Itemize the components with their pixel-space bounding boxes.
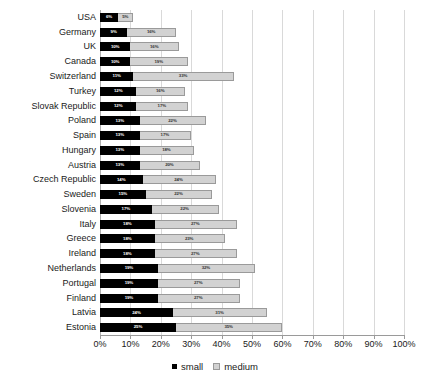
legend-swatch-small: [172, 364, 177, 369]
bar-value-label: 27%: [191, 252, 200, 256]
bar-segment-small: 18%: [100, 234, 155, 243]
bar-segment-small: 19%: [100, 279, 158, 288]
bar-row: 14%24%: [100, 175, 404, 184]
bar-value-label: 22%: [180, 207, 189, 211]
bar-segment-medium: 16%: [127, 28, 176, 37]
legend-item-medium[interactable]: medium: [213, 362, 258, 372]
bar-segment-medium: 5%: [118, 13, 133, 22]
bar-row: 17%22%: [100, 205, 404, 214]
bar-segment-medium: 35%: [176, 323, 282, 332]
bar-segment-small: 12%: [100, 102, 136, 111]
bar-row: 18%23%: [100, 234, 404, 243]
bar-value-label: 19%: [155, 60, 164, 64]
category-label-ireland: Ireland: [0, 249, 96, 258]
bar-segment-small: 10%: [100, 57, 130, 66]
category-label-estonia: Estonia: [0, 323, 96, 332]
bar-value-label: 35%: [224, 325, 233, 329]
category-label-spain: Spain: [0, 131, 96, 140]
bar-value-label: 23%: [185, 237, 194, 241]
category-label-germany: Germany: [0, 28, 96, 37]
legend-label: medium: [224, 362, 258, 372]
bar-row: 18%27%: [100, 220, 404, 229]
legend-label: small: [181, 362, 203, 372]
bar-value-label: 17%: [161, 133, 170, 137]
bar-value-label: 15%: [119, 192, 128, 196]
category-label-canada: Canada: [0, 57, 96, 66]
category-label-italy: Italy: [0, 220, 96, 229]
bar-value-label: 13%: [116, 133, 125, 137]
category-label-switzerland: Switzerland: [0, 72, 96, 81]
category-label-usa: USA: [0, 13, 96, 22]
category-label-latvia: Latvia: [0, 308, 96, 317]
legend-item-small[interactable]: small: [172, 362, 203, 372]
bar-segment-medium: 16%: [136, 87, 185, 96]
bar-value-label: 13%: [116, 119, 125, 123]
bar-value-label: 20%: [165, 163, 174, 167]
bar-value-label: 32%: [202, 266, 211, 270]
bar-segment-medium: 22%: [140, 116, 207, 125]
category-label-turkey: Turkey: [0, 87, 96, 96]
bar-row: 13%17%: [100, 131, 404, 140]
bar-value-label: 9%: [111, 30, 117, 34]
x-tick-label: 70%: [304, 340, 322, 349]
bar-segment-small: 25%: [100, 323, 176, 332]
bar-value-label: 24%: [174, 178, 183, 182]
bar-segment-medium: 23%: [155, 234, 225, 243]
bar-segment-medium: 27%: [155, 249, 237, 258]
bar-value-label: 18%: [123, 222, 132, 226]
bar-segment-small: 13%: [100, 116, 140, 125]
category-label-slovak-republic: Slovak Republic: [0, 102, 96, 111]
bar-row: 13%18%: [100, 146, 404, 155]
bar-value-label: 19%: [125, 266, 134, 270]
x-tick-label: 60%: [273, 340, 291, 349]
category-label-greece: Greece: [0, 234, 96, 243]
bar-segment-medium: 33%: [133, 72, 233, 81]
bar-value-label: 10%: [111, 60, 120, 64]
x-axis-ticks: 0%10%20%30%40%50%60%70%80%90%100%: [100, 336, 404, 350]
category-label-netherlands: Netherlands: [0, 264, 96, 273]
bar-value-label: 10%: [111, 45, 120, 49]
x-tick-label: 100%: [392, 340, 415, 349]
bar-segment-small: 18%: [100, 249, 155, 258]
x-tick-label: 10%: [121, 340, 139, 349]
category-axis-labels: USAGermanyUKCanadaSwitzerlandTurkeySlova…: [0, 10, 96, 335]
category-label-portugal: Portugal: [0, 279, 96, 288]
bar-row: 19%27%: [100, 279, 404, 288]
bar-value-label: 14%: [117, 178, 126, 182]
bar-row: 10%16%: [100, 42, 404, 51]
bar-row: 24%31%: [100, 308, 404, 317]
bar-segment-small: 12%: [100, 87, 136, 96]
bar-value-label: 33%: [179, 74, 188, 78]
bar-row: 6%5%: [100, 13, 404, 22]
bar-value-label: 22%: [174, 192, 183, 196]
plot-area: 6%5%9%16%10%16%10%19%11%33%12%16%12%17%1…: [100, 10, 404, 335]
bar-segment-medium: 27%: [155, 220, 237, 229]
bar-value-label: 6%: [106, 15, 112, 19]
x-tick-label: 20%: [152, 340, 170, 349]
bar-row: 19%27%: [100, 294, 404, 303]
stacked-bar-chart: USAGermanyUKCanadaSwitzerlandTurkeySlova…: [0, 0, 430, 382]
category-label-hungary: Hungary: [0, 146, 96, 155]
bar-row: 9%16%: [100, 28, 404, 37]
bar-segment-medium: 16%: [130, 42, 179, 51]
category-label-poland: Poland: [0, 116, 96, 125]
bar-value-label: 27%: [191, 222, 200, 226]
bar-segment-small: 10%: [100, 42, 130, 51]
bar-segment-medium: 27%: [158, 279, 240, 288]
bar-segment-small: 13%: [100, 131, 140, 140]
bar-value-label: 25%: [134, 325, 143, 329]
bar-row: 12%16%: [100, 87, 404, 96]
bar-segment-medium: 27%: [158, 294, 240, 303]
bar-segment-small: 13%: [100, 161, 140, 170]
gridline-100pct: [404, 10, 405, 335]
bar-value-label: 18%: [123, 252, 132, 256]
bar-row: 10%19%: [100, 57, 404, 66]
bar-value-label: 16%: [147, 30, 156, 34]
bar-row: 13%20%: [100, 161, 404, 170]
bar-segment-small: 19%: [100, 264, 158, 273]
bar-segment-medium: 24%: [143, 175, 216, 184]
bar-segment-medium: 31%: [173, 308, 267, 317]
bar-value-label: 19%: [125, 281, 134, 285]
bar-value-label: 13%: [116, 148, 125, 152]
chart-legend: smallmedium: [0, 362, 430, 372]
